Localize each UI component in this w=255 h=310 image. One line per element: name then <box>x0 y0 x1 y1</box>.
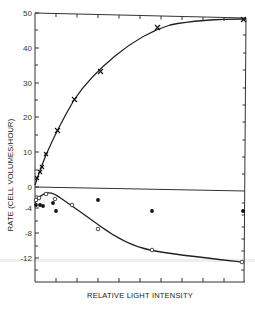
filled-circle-marker <box>41 204 45 208</box>
open-circle-marker <box>53 197 57 201</box>
y-tick-40: 40 <box>23 44 32 53</box>
bottom-ticks <box>56 278 224 282</box>
open-circle-marker <box>150 248 154 252</box>
y-tick-10: 10 <box>23 148 32 157</box>
filled-circle-markers <box>34 198 245 213</box>
y-tick-0: 0 <box>28 183 33 192</box>
y-tick-30: 30 <box>23 79 32 88</box>
x-axis-label: RELATIVE LIGHT INTENSITY <box>87 291 193 300</box>
y-tick-neg4: -4 <box>25 204 33 213</box>
chart: 50 40 30 20 10 0 -4 -8 -12 RELATIVE LIGH… <box>0 0 255 310</box>
open-circle-marker <box>240 260 244 264</box>
open-circle-markers <box>34 192 244 264</box>
lower-fit-curve <box>35 193 243 262</box>
filled-circle-marker <box>54 209 58 213</box>
zero-line <box>35 187 245 191</box>
y-tick-50: 50 <box>23 9 32 18</box>
y-tick-neg12: -12 <box>20 254 32 263</box>
left-ticks <box>35 13 39 270</box>
open-circle-marker <box>70 203 74 207</box>
filled-circle-marker <box>241 209 245 213</box>
y-tick-neg8: -8 <box>25 229 33 238</box>
y-tick-labels: 50 40 30 20 10 0 -4 -8 -12 <box>20 9 32 263</box>
filled-circle-marker <box>34 203 38 207</box>
y-axis-right <box>244 18 246 282</box>
axes <box>35 13 246 282</box>
cross-markers <box>35 17 246 180</box>
filled-circle-marker <box>51 201 55 205</box>
cross-marker <box>72 97 77 102</box>
open-circle-marker <box>44 192 48 196</box>
filled-circle-marker <box>96 198 100 202</box>
cross-marker <box>55 128 60 133</box>
upper-fit-curve <box>35 19 246 185</box>
y-tick-20: 20 <box>23 113 32 122</box>
filled-circle-marker <box>150 209 154 213</box>
open-circle-marker <box>96 227 100 231</box>
y-axis-label: RATE (CELL VOLUMES/HOUR) <box>6 118 15 231</box>
open-circle-marker <box>37 196 41 200</box>
